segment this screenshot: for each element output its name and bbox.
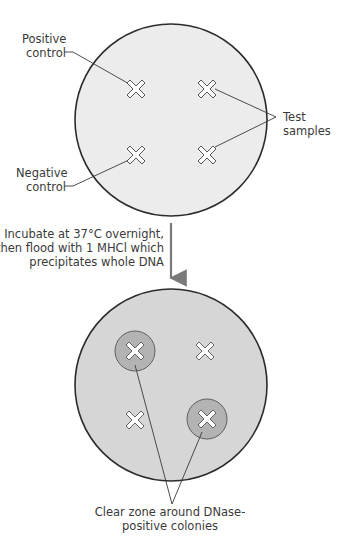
petri-dish-after [75,289,267,481]
positive-control-label-1: Positive [22,32,66,46]
step-text-1: Incubate at 37°C overnight, [4,227,164,241]
bottom-agar-plate: Clear zone around DNase- positive coloni… [75,289,267,533]
step-text-3: precipitates whole DNA [29,255,164,269]
caption-line-1: Clear zone around DNase- [95,505,246,519]
negative-control-label-2: control [26,180,66,194]
petri-dish-before [75,24,267,216]
positive-control-label-2: control [26,46,66,60]
incubation-step: Incubate at 37°C overnight, then flood w… [0,223,171,278]
dnase-test-diagram: Positive control Negative control Test s… [0,0,338,545]
caption-line-2: positive colonies [122,519,218,533]
top-agar-plate: Positive control Negative control Test s… [16,24,331,216]
test-samples-label-2: samples [283,124,331,138]
test-samples-label-1: Test [282,110,306,124]
step-text-2: then flood with 1 MHCl which [0,241,164,255]
negative-control-label-1: Negative [16,166,68,180]
